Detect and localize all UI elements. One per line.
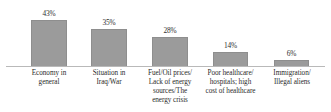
bar-group-2: 35% — [91, 0, 127, 67]
bar-chart: 43% 35% 28% 14% 6% Economy in general — [0, 0, 331, 112]
bar-rect-3[interactable] — [152, 37, 188, 67]
bar-rect-2[interactable] — [91, 29, 127, 67]
bar-group-3: 28% — [152, 0, 188, 67]
category-label-5-line-2: Illegal aliens — [256, 78, 328, 87]
category-label-4-line-3: cost of healthcare — [194, 87, 267, 96]
bar-value-label-1: 43% — [31, 10, 67, 18]
bar-value-label-5: 6% — [274, 50, 309, 58]
category-labels: Economy in general Situation in Iraq/War… — [0, 69, 331, 112]
category-label-3-line-4: energy crisis — [134, 96, 206, 105]
plot-area: 43% 35% 28% 14% 6% — [0, 0, 331, 67]
x-axis-line — [6, 66, 325, 67]
bar-value-label-4: 14% — [213, 42, 248, 50]
bar-value-label-3: 28% — [152, 27, 188, 35]
category-label-5-line-1: Immigration/ — [256, 69, 328, 78]
category-label-5: Immigration/ Illegal aliens — [256, 69, 328, 87]
bar-rect-4[interactable] — [213, 52, 248, 67]
bar-group-1: 43% — [31, 0, 67, 67]
bar-group-5: 6% — [274, 0, 309, 67]
bar-group-4: 14% — [213, 0, 248, 67]
bar-value-label-2: 35% — [91, 19, 127, 27]
bar-rect-1[interactable] — [31, 20, 67, 67]
